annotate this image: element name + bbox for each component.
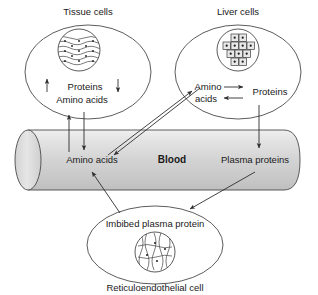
liver-cell-group <box>175 25 301 119</box>
diagram-canvas: Tissue cells Liver cells Proteins Amino … <box>0 0 318 295</box>
tissue-fiber-pattern <box>56 37 112 65</box>
blood-amino-acids-label: Amino acids <box>66 154 118 165</box>
granule-row-1 <box>231 34 247 42</box>
plasma-proteins-label: Plasma proteins <box>221 154 289 165</box>
liver-granule-pattern <box>223 34 255 66</box>
reticuloendothelial-cell-title: Reticuloendothelial cell <box>106 282 203 293</box>
metabolism-diagram: Tissue cells Liver cells Proteins Amino … <box>0 0 318 295</box>
liver-proteins-label: Proteins <box>253 86 288 97</box>
reticulo-fiber-pattern <box>138 233 172 270</box>
tissue-amino-acids-label: Amino acids <box>56 94 108 105</box>
imbibed-plasma-protein-label: Imbibed plasma protein <box>106 218 205 229</box>
granule-row-4 <box>231 58 247 66</box>
tissue-cells-title: Tissue cells <box>63 6 113 17</box>
blood-label: Blood <box>158 154 186 165</box>
granule-row-3 <box>227 50 251 58</box>
liver-cells-title: Liver cells <box>217 6 259 17</box>
vessel-left-cap <box>15 130 41 190</box>
tissue-proteins-label: Proteins <box>68 81 103 92</box>
liver-amino-acids-line2: acids <box>195 93 217 104</box>
granule-row-2 <box>223 42 255 50</box>
liver-amino-acids-line1: Amino <box>195 81 222 92</box>
